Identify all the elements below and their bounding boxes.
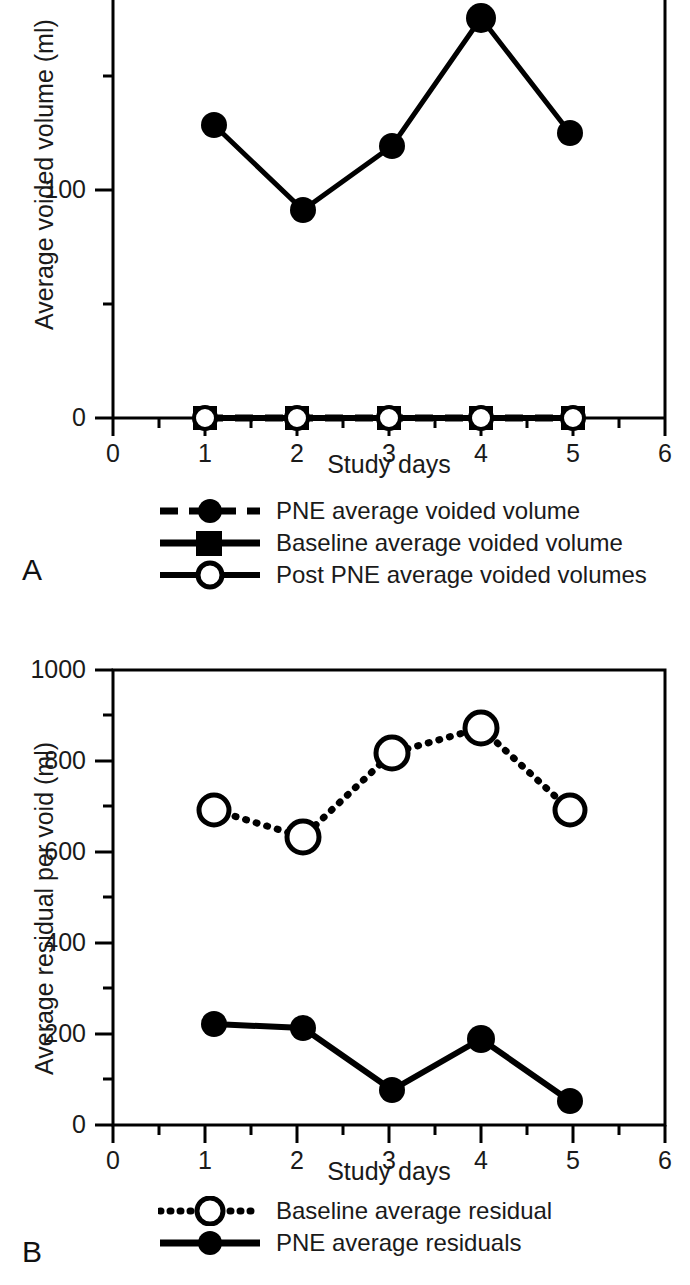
panel-b-ytick-1000: 1000 — [6, 657, 86, 682]
legend-label-baseline-voided-volume: Baseline average voided volume — [276, 528, 623, 558]
panel-b-xtick-5: 5 — [553, 1148, 593, 1173]
panel-a-ytick-0: 0 — [36, 405, 86, 430]
legend-label-pne-voided-volume: PNE average voided volume — [276, 496, 580, 526]
legend-item-pne-residual: PNE average residuals — [158, 1228, 552, 1258]
solid-open-circle-key-icon — [158, 560, 262, 590]
panel-b-xtick-1: 1 — [185, 1148, 225, 1173]
panel-a-legend: PNE average voided volume Baseline avera… — [158, 496, 647, 592]
panel-a-xtick-1: 1 — [185, 441, 225, 466]
legend-item-pne-voided-volume: PNE average voided volume — [158, 496, 647, 526]
panel-letter-a: A — [22, 555, 42, 585]
solid-filled-square-key-icon — [158, 528, 262, 558]
series-pne-residual — [201, 1011, 583, 1114]
series-baseline-residual — [199, 712, 585, 853]
panel-a-xtick-0: 0 — [93, 441, 133, 466]
panel-b-legend: Baseline average residual PNE average re… — [158, 1196, 552, 1260]
panel-b-y-axis-title: Average residual per void (ml) — [30, 742, 59, 1075]
series-pne-voided-volume — [201, 3, 583, 418]
panel-b-xtick-0: 0 — [93, 1148, 133, 1173]
legend-label-post-pne-voided-volume: Post PNE average voided volumes — [276, 560, 647, 590]
panel-b-ytick-0: 0 — [6, 1112, 86, 1137]
solid-filled-circle-key-icon — [158, 1228, 262, 1258]
legend-item-baseline-voided-volume: Baseline average voided volume — [158, 528, 647, 558]
legend-item-post-pne-voided-volume: Post PNE average voided volumes — [158, 560, 647, 590]
panel-a-y-axis-title: Average voided volume (ml) — [30, 19, 59, 330]
figure-root: 100 0 0 1 2 3 4 5 6 Average voided volum… — [0, 0, 690, 1285]
panel-b-x-axis-title: Study days — [289, 1157, 489, 1186]
panel-a-xtick-5: 5 — [553, 441, 593, 466]
panel-b-xtick-6: 6 — [645, 1148, 685, 1173]
dotted-open-circle-key-icon — [158, 1196, 262, 1226]
panel-b-x-major-ticks — [113, 1125, 665, 1143]
panel-b: 1000 800 600 400 200 0 0 1 2 3 4 5 6 Ave… — [0, 640, 690, 1285]
panel-a-xtick-6: 6 — [645, 441, 685, 466]
panel-b-plot — [0, 640, 690, 1285]
legend-label-baseline-residual: Baseline average residual — [276, 1196, 552, 1226]
panel-a: 100 0 0 1 2 3 4 5 6 Average voided volum… — [0, 0, 690, 610]
dashed-filled-circle-key-icon — [158, 496, 262, 526]
panel-a-axes — [113, 0, 665, 418]
legend-item-baseline-residual: Baseline average residual — [158, 1196, 552, 1226]
panel-letter-b: B — [22, 1237, 42, 1267]
panel-a-x-axis-title: Study days — [289, 450, 489, 479]
legend-label-pne-residual: PNE average residuals — [276, 1228, 521, 1258]
